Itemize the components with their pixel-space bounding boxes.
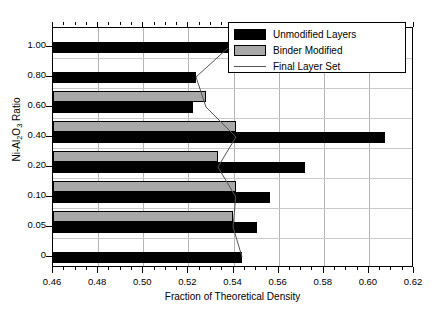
- x-tick-label-0.60: 0.60: [348, 276, 388, 287]
- y-tick-label-0.40: 0.40: [2, 129, 46, 140]
- y-axis-title-mid: O: [11, 128, 22, 136]
- x-tick-0.59: [345, 267, 346, 270]
- x-tick-0.58: [323, 267, 324, 273]
- x-tick-label-0.46: 0.46: [32, 276, 72, 287]
- x-tick-0.47: [75, 267, 76, 270]
- x-tick-0.5: [142, 267, 143, 273]
- x-tick-0.54: [233, 267, 234, 273]
- x-tick-0.6: [368, 267, 369, 273]
- x-tick-0.535: [221, 267, 222, 270]
- x-tick-label-0.50: 0.50: [122, 276, 162, 287]
- x-tick-0.615: [402, 267, 403, 270]
- x-tick-top-0.535: [221, 22, 222, 25]
- x-tick-top-0.53: [210, 22, 211, 25]
- legend-label-final-layer-set: Final Layer Set: [273, 61, 340, 72]
- y-tick-label-0.60: 0.60: [2, 99, 46, 110]
- x-tick-label-0.52: 0.52: [167, 276, 207, 287]
- y-tick-0.40: [46, 136, 52, 137]
- x-tick-0.48: [97, 267, 98, 273]
- x-tick-0.465: [63, 267, 64, 270]
- x-tick-0.485: [108, 267, 109, 270]
- legend-swatch-final-layer-set: [234, 61, 266, 72]
- y-tick-0.20: [46, 166, 52, 167]
- x-tick-label-0.62: 0.62: [393, 276, 433, 287]
- x-tick-0.62: [413, 267, 414, 273]
- x-tick-top-0.475: [86, 22, 87, 25]
- y-axis-title-sub-3: 3: [15, 124, 24, 128]
- y-tick-label-1.00: 1.00: [2, 39, 46, 50]
- x-tick-0.525: [199, 267, 200, 270]
- y-tick-label-0.05: 0.05: [2, 219, 46, 230]
- x-tick-top-0.62: [413, 22, 414, 27]
- x-tick-top-0.49: [120, 22, 121, 25]
- x-tick-0.475: [86, 267, 87, 270]
- y-tick-label-0.10: 0.10: [2, 189, 46, 200]
- y-tick-0.60: [46, 106, 52, 107]
- legend-item-unmodified-layers: Unmodified Layers: [234, 27, 400, 42]
- x-tick-0.595: [357, 267, 358, 270]
- y-tick-0.10: [46, 196, 52, 197]
- legend-item-final-layer-set: Final Layer Set: [234, 59, 400, 74]
- y-tick-0: [46, 256, 52, 257]
- x-tick-label-0.58: 0.58: [303, 276, 343, 287]
- y-axis-title-prefix: Ni-Al: [11, 140, 22, 162]
- y-tick-0.80: [46, 76, 52, 77]
- y-axis-title-sub-2: 2: [15, 136, 24, 140]
- x-tick-0.505: [154, 267, 155, 270]
- legend-swatch-unmodified-layers: [234, 29, 266, 40]
- x-tick-0.56: [278, 267, 279, 273]
- x-tick-0.575: [311, 267, 312, 270]
- y-tick-0.05: [46, 226, 52, 227]
- x-tick-top-0.48: [97, 22, 98, 27]
- x-tick-top-0.51: [165, 22, 166, 25]
- x-tick-0.605: [379, 267, 380, 270]
- y-tick-1.00: [46, 46, 52, 47]
- x-tick-label-0.48: 0.48: [77, 276, 117, 287]
- x-tick-0.46: [52, 267, 53, 273]
- legend-label-unmodified-layers: Unmodified Layers: [273, 29, 356, 40]
- x-tick-top-0.525: [199, 22, 200, 25]
- x-tick-0.61: [390, 267, 391, 270]
- x-tick-0.585: [334, 267, 335, 270]
- x-tick-0.52: [187, 267, 188, 273]
- y-axis-tick-labels: 1.000.800.600.400.200.100.050: [0, 0, 46, 316]
- x-tick-0.555: [266, 267, 267, 270]
- x-tick-0.49: [120, 267, 121, 270]
- x-tick-top-0.5: [142, 22, 143, 27]
- legend-item-binder-modified: Binder Modified: [234, 43, 400, 58]
- x-tick-0.515: [176, 267, 177, 270]
- y-tick-label-0.20: 0.20: [2, 159, 46, 170]
- x-tick-0.495: [131, 267, 132, 270]
- legend-label-binder-modified: Binder Modified: [273, 45, 342, 56]
- y-axis-title: Ni-Al2O3 Ratio: [11, 70, 22, 190]
- y-axis-title-suffix: Ratio: [11, 98, 22, 124]
- x-tick-top-0.46: [52, 22, 53, 27]
- y-tick-label-0: 0: [2, 249, 46, 260]
- x-tick-0.53: [210, 267, 211, 270]
- x-tick-top-0.485: [108, 22, 109, 25]
- x-tick-0.57: [300, 267, 301, 270]
- x-tick-0.55: [255, 267, 256, 270]
- x-tick-0.565: [289, 267, 290, 270]
- legend-swatch-binder-modified: [234, 45, 266, 56]
- x-tick-top-0.47: [75, 22, 76, 25]
- x-tick-top-0.52: [187, 22, 188, 27]
- x-axis-title: Fraction of Theoretical Density: [52, 291, 413, 302]
- x-tick-label-0.56: 0.56: [258, 276, 298, 287]
- x-tick-label-0.54: 0.54: [213, 276, 253, 287]
- x-tick-0.545: [244, 267, 245, 270]
- legend: Unmodified Layers Binder Modified Final …: [228, 22, 406, 73]
- x-tick-top-0.465: [63, 22, 64, 25]
- x-tick-top-0.515: [176, 22, 177, 25]
- chart-container: 1.000.800.600.400.200.100.050 Ni-Al2O3 R…: [0, 0, 437, 316]
- x-tick-top-0.495: [131, 22, 132, 25]
- y-tick-label-0.80: 0.80: [2, 69, 46, 80]
- x-tick-top-0.505: [154, 22, 155, 25]
- x-tick-0.51: [165, 267, 166, 270]
